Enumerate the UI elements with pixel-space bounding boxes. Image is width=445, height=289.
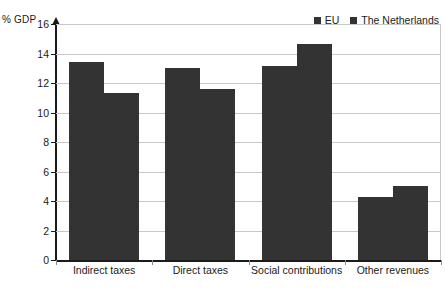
x-axis-label: Indirect taxes — [56, 264, 152, 276]
bar-group — [56, 24, 152, 260]
bar — [200, 89, 235, 260]
y-tick-label: 10 — [37, 107, 56, 119]
y-tick-label: 4 — [43, 195, 56, 207]
y-tick-label: 6 — [43, 166, 56, 178]
bar-group — [249, 24, 345, 260]
bar — [104, 93, 139, 260]
y-tick-label: 8 — [43, 136, 56, 148]
legend-entry: EU — [314, 14, 340, 26]
legend-entry: The Netherlands — [350, 14, 439, 26]
plot-area: 1614121086420 — [56, 24, 441, 260]
bar — [393, 186, 428, 260]
bar — [69, 62, 104, 260]
y-tick-label: 0 — [43, 254, 56, 266]
x-axis-labels: Indirect taxesDirect taxesSocial contrib… — [56, 264, 441, 276]
x-axis-label: Other revenues — [345, 264, 441, 276]
bar — [262, 66, 297, 260]
bar-group — [345, 24, 441, 260]
x-tick-mark — [441, 260, 442, 265]
y-tick-label: 12 — [37, 77, 56, 89]
bar-group — [152, 24, 248, 260]
bar — [358, 197, 393, 260]
bar — [165, 68, 200, 260]
bars-container — [56, 24, 441, 260]
x-axis-label: Direct taxes — [152, 264, 248, 276]
y-axis-unit-label: % GDP — [2, 14, 36, 25]
legend-label: EU — [325, 14, 340, 26]
bar — [297, 44, 332, 260]
y-tick-label: 14 — [37, 48, 56, 60]
y-tick-label: 16 — [37, 18, 56, 30]
legend-label: The Netherlands — [361, 14, 439, 26]
legend-swatch-icon — [314, 17, 321, 24]
x-axis-label: Social contributions — [249, 264, 345, 276]
bar-chart: % GDP 1614121086420 Indirect taxesDirect… — [0, 0, 445, 289]
y-tick-label: 2 — [43, 225, 56, 237]
legend-swatch-icon — [350, 17, 357, 24]
legend: EUThe Netherlands — [314, 14, 439, 26]
